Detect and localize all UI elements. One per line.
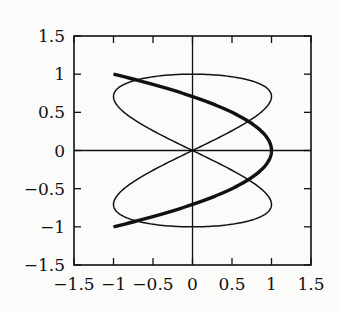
y-tick-label: 1.5: [38, 26, 65, 46]
chart: −1.5−1−0.500.511.5 1.510.50−0.5−1−1.5: [0, 0, 340, 311]
x-tick-label: 1.5: [297, 274, 324, 294]
y-tick-label: −1.5: [24, 255, 65, 275]
x-tick-label: 0.5: [218, 274, 245, 294]
x-tick-label: −1: [101, 274, 126, 294]
y-tick-label: −0.5: [24, 179, 65, 199]
x-tick-label: 0: [187, 274, 198, 294]
x-tick-label: −1.5: [53, 274, 94, 294]
y-tick-label: 0.5: [38, 102, 65, 122]
y-tick-labels: 1.510.50−0.5−1−1.5: [24, 26, 65, 275]
y-tick-label: −1: [40, 217, 65, 237]
x-tick-label: 1: [266, 274, 277, 294]
y-tick-label: 1: [54, 64, 65, 84]
x-tick-label: −0.5: [132, 274, 173, 294]
x-tick-labels: −1.5−1−0.500.511.5: [53, 274, 324, 294]
y-tick-label: 0: [54, 141, 65, 161]
